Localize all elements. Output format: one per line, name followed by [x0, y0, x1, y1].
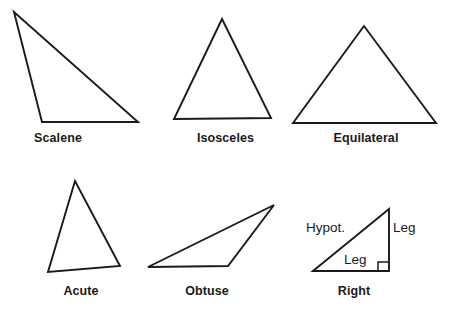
- equilateral-triangle-shape: [293, 26, 436, 123]
- obtuse-triangle-shape: [148, 205, 274, 267]
- side-label-hypotenuse: Hypot.: [306, 220, 345, 235]
- figure-caption-equilateral: Equilateral: [326, 131, 406, 145]
- side-label-leg-vertical: Leg: [393, 220, 416, 235]
- figure-caption-right: Right: [324, 284, 384, 298]
- isosceles-triangle-shape: [174, 19, 271, 119]
- triangles-canvas: [0, 0, 453, 312]
- figure-caption-acute: Acute: [51, 284, 111, 298]
- side-label-leg-horizontal: Leg: [344, 252, 367, 267]
- figure-caption-obtuse: Obtuse: [177, 284, 237, 298]
- scalene-triangle-shape: [14, 12, 138, 122]
- right-angle-marker-icon: [378, 262, 388, 271]
- acute-triangle-shape: [48, 181, 120, 272]
- figure-caption-scalene: Scalene: [28, 131, 88, 145]
- triangle-types-figure: Scalene Isosceles Equilateral Acute Obtu…: [0, 0, 453, 312]
- figure-caption-isosceles: Isosceles: [193, 131, 258, 145]
